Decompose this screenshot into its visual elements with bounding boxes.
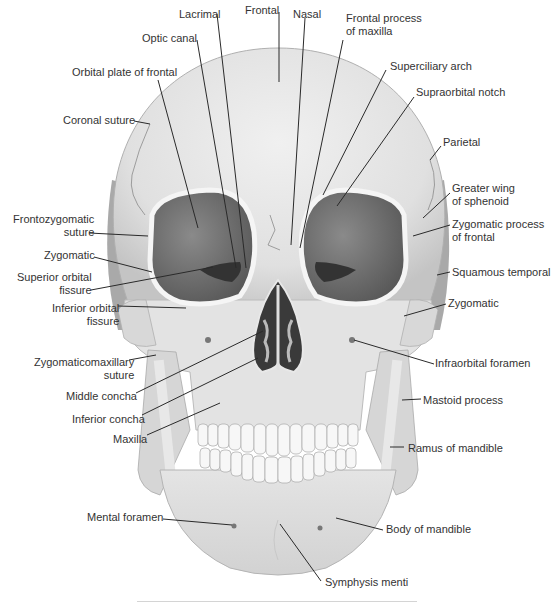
label-zygomaticomaxillary-suture: Zygomaticomaxillarysuture bbox=[34, 356, 134, 382]
label-zygomatic-process-of-frontal: Zygomatic processof frontal bbox=[452, 218, 544, 244]
label-zygomatic-left: Zygomatic bbox=[44, 249, 95, 262]
label-superior-orbital-fissure: Superior orbitalfissure bbox=[17, 271, 92, 297]
label-frontozygomatic-suture: Frontozygomaticsuture bbox=[13, 213, 94, 239]
label-supraorbital-notch: Supraorbital notch bbox=[416, 86, 505, 99]
label-frontal: Frontal bbox=[245, 4, 279, 17]
label-lacrimal: Lacrimal bbox=[179, 8, 221, 21]
label-inferior-orbital-fissure: Inferior orbitalfissure bbox=[52, 302, 119, 328]
label-optic-canal: Optic canal bbox=[142, 32, 197, 45]
label-coronal-suture: Coronal suture bbox=[63, 114, 135, 127]
label-infraorbital-foramen: Infraorbital foramen bbox=[435, 357, 530, 370]
label-ramus-of-mandible: Ramus of mandible bbox=[408, 442, 503, 455]
label-parietal: Parietal bbox=[443, 136, 480, 149]
skull-anterior-diagram: LacrimalFrontalNasalFrontal processof ma… bbox=[0, 0, 556, 606]
label-frontal-process-of-maxilla: Frontal processof maxilla bbox=[346, 12, 422, 38]
label-zygomatic-right: Zygomatic bbox=[448, 297, 499, 310]
label-mental-foramen: Mental foramen bbox=[87, 511, 163, 524]
label-body-of-mandible: Body of mandible bbox=[386, 523, 471, 536]
label-squamous-temporal: Squamous temporal bbox=[452, 266, 550, 279]
label-superciliary-arch: Superciliary arch bbox=[390, 60, 472, 73]
bottom-divider bbox=[137, 601, 417, 602]
label-middle-concha: Middle concha bbox=[66, 390, 137, 403]
label-orbital-plate-of-frontal: Orbital plate of frontal bbox=[72, 66, 177, 79]
label-maxilla: Maxilla bbox=[113, 433, 147, 446]
label-nasal: Nasal bbox=[293, 8, 321, 21]
label-symphysis-menti: Symphysis menti bbox=[325, 576, 408, 589]
label-inferior-concha: Inferior concha bbox=[72, 413, 145, 426]
orbit-right bbox=[301, 190, 406, 304]
label-mastoid-process: Mastoid process bbox=[423, 394, 503, 407]
label-greater-wing-of-sphenoid: Greater wingof sphenoid bbox=[452, 182, 515, 208]
